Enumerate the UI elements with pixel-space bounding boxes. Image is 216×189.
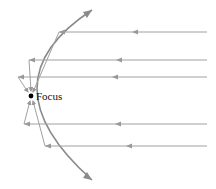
parabola-top-arrow-icon	[83, 10, 92, 18]
parabola-diagram: Focus	[0, 0, 216, 189]
focus-point	[29, 94, 34, 99]
focus-label: Focus	[36, 90, 62, 102]
ray-arrowheads	[18, 30, 138, 149]
reflected-ray-3	[18, 77, 28, 92]
reflected-ray-1	[33, 32, 59, 92]
arrow-left-icon	[116, 58, 122, 63]
arrow-left-icon	[126, 144, 132, 149]
reflected-ray-2	[29, 60, 31, 91]
arrow-left-icon	[132, 30, 138, 35]
arrow-left-icon	[115, 122, 121, 127]
arrow-left-icon	[29, 58, 35, 63]
reflected-rays	[18, 32, 59, 146]
incoming-rays	[18, 32, 207, 146]
arrow-left-icon	[45, 144, 51, 149]
reflected-ray-4	[24, 101, 30, 124]
arrow-left-icon	[112, 75, 118, 80]
